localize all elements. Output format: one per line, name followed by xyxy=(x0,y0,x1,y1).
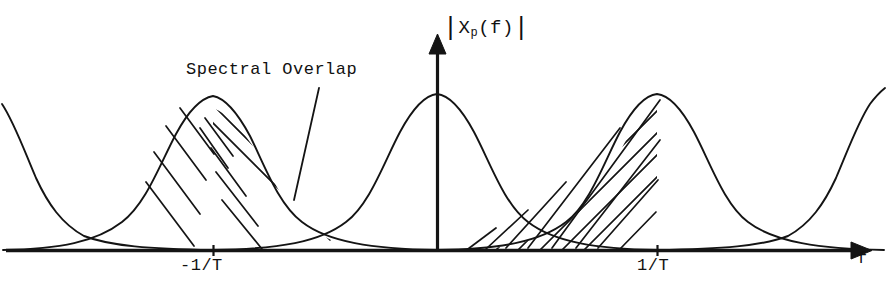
tick-label-negative-one-over-t: -1/T xyxy=(180,256,223,275)
axes xyxy=(6,34,872,259)
y-axis-label-bar-left: | xyxy=(443,14,459,43)
y-axis-label-argument: (f) xyxy=(478,17,514,39)
curve-replica-minus-one xyxy=(3,96,437,250)
hatch-overlap-left-strokes xyxy=(146,108,262,249)
spectrum-figure: Spectral Overlap -1/T 1/T f |Xp(f)| xyxy=(0,0,887,286)
y-axis-label-subscript: p xyxy=(470,26,478,40)
spectral-overlap-leader-line xyxy=(294,88,319,200)
curve-replica-plus-two xyxy=(657,88,885,250)
curve-replica-plus-one xyxy=(437,94,884,250)
hatch-overlap-right xyxy=(430,70,764,250)
tick-label-one-over-t: 1/T xyxy=(637,256,669,275)
hatch-overlap-left xyxy=(150,60,492,240)
curve-replica-zero xyxy=(213,94,657,250)
y-axis-label-main: X xyxy=(459,17,471,39)
spectral-overlap-label: Spectral Overlap xyxy=(186,60,357,79)
y-axis-label-bar-right: | xyxy=(514,14,530,43)
y-axis-label: |Xp(f)| xyxy=(443,14,529,43)
spectrum-curves xyxy=(2,88,885,250)
x-axis-label: f xyxy=(857,249,867,268)
